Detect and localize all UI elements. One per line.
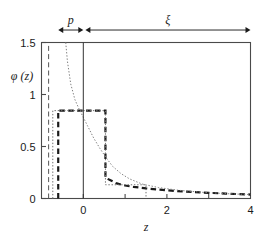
plot-frame (42, 43, 251, 199)
annotation-p: p (58, 13, 83, 33)
series-decay-curve-dotted (66, 43, 251, 195)
annotation-xi-label: ξ (165, 13, 171, 27)
figure-container: 02400.511.5zφ (z)pξ (0, 0, 266, 235)
x-axis-title: z (143, 220, 149, 234)
annotation-xi-arrowhead-0 (85, 27, 90, 33)
y-tick-label-3: 1.5 (20, 37, 35, 49)
annotation-xi: ξ (85, 13, 250, 33)
x-tick-label-1: 0 (80, 204, 86, 216)
y-axis-title: φ (z) (11, 69, 33, 83)
y-tick-label-1: 0.5 (20, 141, 35, 153)
series-box-profile-dotted (53, 111, 146, 199)
x-tick-label-5: 4 (247, 204, 253, 216)
annotation-p-arrowhead-1 (78, 27, 83, 33)
phi-z-profile-chart: 02400.511.5zφ (z)pξ (0, 0, 266, 235)
y-tick-label-2: 1 (29, 89, 35, 101)
annotation-xi-arrowhead-1 (246, 27, 251, 33)
annotation-p-arrowhead-0 (58, 27, 63, 33)
x-tick-label-3: 2 (164, 204, 170, 216)
series-step-profile-dashed (58, 111, 250, 199)
y-tick-label-0: 0 (29, 193, 35, 205)
annotation-p-label: p (67, 13, 74, 27)
